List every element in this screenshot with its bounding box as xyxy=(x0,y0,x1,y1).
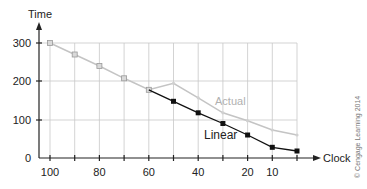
series-actual: Actual xyxy=(48,41,299,137)
actual-label: Actual xyxy=(215,95,246,107)
y-tick-200: 200 xyxy=(13,75,31,87)
y-axis-title: Time xyxy=(28,8,52,20)
y-tick-300: 300 xyxy=(13,37,31,49)
x-tick-100: 100 xyxy=(41,166,59,178)
x-tick-20: 20 xyxy=(241,166,253,178)
x-axis-title: Clock xyxy=(323,152,351,164)
chart: Time Clock 300 200 100 0 100 80 60 40 20… xyxy=(0,0,367,189)
x-tick-60: 60 xyxy=(143,166,155,178)
y-tick-100: 100 xyxy=(13,114,31,126)
x-tick-80: 80 xyxy=(93,166,105,178)
linear-label: Linear xyxy=(204,128,237,142)
y-tick-0: 0 xyxy=(25,152,31,164)
copyright-note: © Cengage Learning 2014 xyxy=(354,96,362,178)
x-tick-40: 40 xyxy=(192,166,204,178)
x-tick-10: 10 xyxy=(266,166,278,178)
